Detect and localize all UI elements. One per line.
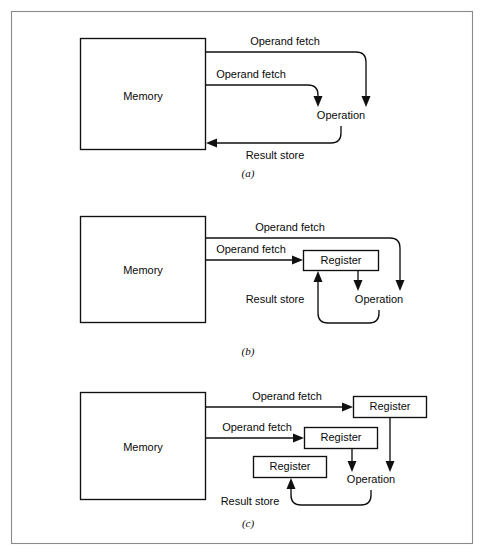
panel-c-operand-fetch-top-label: Operand fetch (252, 390, 322, 402)
panel-c-result-store-label: Result store (221, 495, 280, 507)
panel-c-operation-label: Operation (347, 473, 395, 485)
panel-b-caption: (b) (242, 345, 255, 358)
panel-c-register-top-label: Register (370, 400, 411, 412)
panel-a-operation-label: Operation (317, 109, 365, 121)
panel-a-result-store-label: Result store (246, 149, 305, 161)
panel-a-operand-fetch-second-label: Operand fetch (216, 68, 286, 80)
panel-b-operand-fetch-second-label: Operand fetch (216, 243, 286, 255)
figure-root: Memory Operand fetch Operand fetch Opera… (0, 0, 487, 554)
panel-c-register-middle-label: Register (321, 431, 362, 443)
panel-a-caption: (a) (242, 167, 255, 180)
panel-b-result-store-label: Result store (246, 293, 305, 305)
figure-canvas: Memory Operand fetch Operand fetch Opera… (0, 0, 487, 554)
panel-c-memory-label: Memory (123, 441, 163, 453)
panel-b-register-label: Register (321, 254, 362, 266)
panel-c-register-result-label: Register (270, 460, 311, 472)
panel-b-memory-label: Memory (123, 264, 163, 276)
panel-b-operation-label: Operation (355, 293, 403, 305)
panel-a-memory-label: Memory (123, 90, 163, 102)
panel-a-operand-fetch-top-label: Operand fetch (250, 35, 320, 47)
panel-c-caption: (c) (242, 517, 255, 530)
panel-c-operand-fetch-second-label: Operand fetch (222, 421, 292, 433)
panel-b-operand-fetch-top-label: Operand fetch (255, 221, 325, 233)
